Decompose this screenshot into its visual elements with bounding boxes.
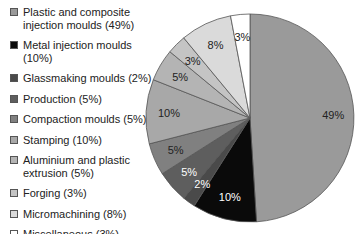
slice-label: 8% [208, 39, 224, 51]
slice-label: 2% [194, 178, 210, 190]
slice-label: 10% [219, 191, 241, 203]
slice-label: 49% [322, 109, 344, 121]
slice-label: 3% [234, 31, 250, 43]
pie-chart: 49%10%2%5%5%10%5%3%8%3% [0, 0, 355, 234]
slice-label: 10% [158, 107, 180, 119]
slice-label: 3% [185, 55, 201, 67]
slice-label: 5% [181, 166, 197, 178]
slice-label: 5% [168, 144, 184, 156]
slice-label: 5% [172, 71, 188, 83]
